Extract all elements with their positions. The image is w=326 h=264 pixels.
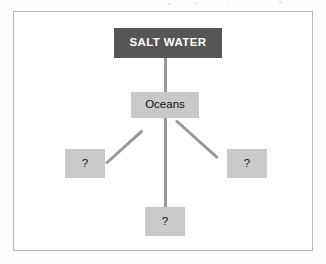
node-blank-right[interactable]: ?: [227, 149, 267, 178]
scan-noise-artifact: [0, 0, 326, 10]
connector-root-to-oceans: [164, 58, 167, 93]
node-blank-left[interactable]: ?: [65, 149, 105, 178]
node-blank-bottom-label: ?: [162, 216, 168, 228]
diagram-canvas: SALT WATER Oceans ? ? ?: [0, 0, 326, 264]
connector-oceans-to-bottom: [164, 118, 167, 208]
node-oceans-label: Oceans: [145, 99, 185, 111]
node-salt-water-label: SALT WATER: [129, 37, 206, 49]
node-blank-bottom[interactable]: ?: [145, 207, 185, 236]
node-blank-left-label: ?: [82, 158, 88, 170]
node-oceans[interactable]: Oceans: [131, 92, 199, 118]
node-salt-water[interactable]: SALT WATER: [114, 28, 222, 58]
node-blank-right-label: ?: [244, 158, 250, 170]
